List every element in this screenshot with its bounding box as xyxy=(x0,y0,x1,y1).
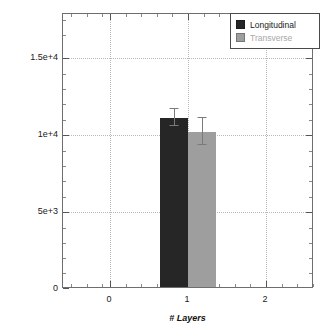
y-tick-label-5000: 5e+3 xyxy=(38,207,58,216)
x-minor-tick xyxy=(282,284,283,287)
y-minor-tick-right xyxy=(309,104,312,105)
x-minor-tick-top xyxy=(172,14,173,17)
y-minor-tick xyxy=(63,151,66,152)
x-minor-tick xyxy=(157,284,158,287)
error-bar-cap-bottom xyxy=(170,125,179,126)
x-minor-tick xyxy=(102,284,103,287)
legend-label-transverse: Transverse xyxy=(250,33,292,43)
y-minor-tick xyxy=(63,35,66,36)
y-major-tick-0 xyxy=(63,288,69,289)
y-major-tick-5000 xyxy=(63,212,69,213)
error-bar-stem xyxy=(202,117,203,145)
y-minor-tick-right xyxy=(309,181,312,182)
gridline-x-2 xyxy=(266,14,267,287)
y-tick-label-0: 0 xyxy=(53,284,58,293)
y-major-tick-10000 xyxy=(63,135,69,136)
y-minor-tick-right xyxy=(309,273,312,274)
x-major-tick-0 xyxy=(110,281,111,287)
error-bar-transverse xyxy=(188,117,216,145)
bar-transverse[interactable] xyxy=(188,132,216,287)
x-minor-tick xyxy=(297,284,298,287)
x-minor-tick xyxy=(87,284,88,287)
y-minor-tick xyxy=(63,166,66,167)
x-minor-tick-top xyxy=(141,14,142,17)
error-bar-stem xyxy=(174,108,175,126)
y-minor-tick xyxy=(63,228,66,229)
y-major-tick-right-10000 xyxy=(306,135,312,136)
x-minor-tick xyxy=(141,284,142,287)
plot-area xyxy=(62,13,313,288)
error-bar-cap-top xyxy=(170,108,179,109)
y-major-tick-15000 xyxy=(63,58,69,59)
y-major-tick-right-5000 xyxy=(306,212,312,213)
x-minor-tick-top xyxy=(219,14,220,17)
y-minor-tick xyxy=(63,273,66,274)
y-minor-tick xyxy=(63,89,66,90)
legend-swatch-transverse xyxy=(236,33,245,42)
x-tick-label-0: 0 xyxy=(94,295,124,304)
x-tick-label-2: 2 xyxy=(250,295,280,304)
y-minor-tick xyxy=(63,258,66,259)
x-minor-tick-top xyxy=(204,14,205,17)
y-minor-tick-right xyxy=(309,197,312,198)
x-minor-tick xyxy=(126,284,127,287)
y-minor-tick xyxy=(63,74,66,75)
y-minor-tick-right xyxy=(309,151,312,152)
x-minor-tick xyxy=(250,284,251,287)
x-minor-tick-top xyxy=(71,14,72,17)
x-major-tick-top-0 xyxy=(110,14,111,20)
x-minor-tick xyxy=(313,284,314,287)
y-minor-tick-right xyxy=(309,74,312,75)
x-major-tick-top-1 xyxy=(188,14,189,20)
y-minor-tick xyxy=(63,243,66,244)
bar-longitudinal[interactable] xyxy=(160,118,188,287)
y-minor-tick xyxy=(63,181,66,182)
legend-item-transverse[interactable]: Transverse xyxy=(236,31,314,44)
legend-label-longitudinal: Longitudinal xyxy=(250,20,296,30)
legend-item-longitudinal[interactable]: Longitudinal xyxy=(236,18,314,31)
gridline-x-0 xyxy=(110,14,111,287)
x-axis-title: # Layers xyxy=(62,312,313,324)
y-minor-tick-right xyxy=(309,243,312,244)
x-minor-tick xyxy=(219,284,220,287)
x-minor-tick xyxy=(71,284,72,287)
y-minor-tick-right xyxy=(309,228,312,229)
y-minor-tick-right xyxy=(309,120,312,121)
x-minor-tick-top xyxy=(87,14,88,17)
error-bar-longitudinal xyxy=(160,108,188,126)
x-tick-label-1: 1 xyxy=(172,295,202,304)
y-minor-tick-right xyxy=(309,89,312,90)
y-minor-tick xyxy=(63,197,66,198)
x-minor-tick-top xyxy=(157,14,158,17)
legend-swatch-longitudinal xyxy=(236,20,245,29)
x-minor-tick-top xyxy=(102,14,103,17)
error-bar-cap-top xyxy=(198,117,207,118)
y-minor-tick-right xyxy=(309,258,312,259)
x-minor-tick-top xyxy=(126,14,127,17)
y-tick-label-10000: 1e+4 xyxy=(38,130,58,139)
y-minor-tick xyxy=(63,120,66,121)
legend: Longitudinal Transverse xyxy=(230,13,320,49)
y-minor-tick-right xyxy=(309,166,312,167)
x-major-tick-2 xyxy=(266,281,267,287)
y-tick-label-15000: 1.5e+4 xyxy=(30,53,58,62)
chart-figure: Electrical conductivity (S/cm) 1.5e+4 1e… xyxy=(0,0,326,333)
y-minor-tick xyxy=(63,20,66,21)
x-minor-tick xyxy=(235,284,236,287)
y-major-tick-right-15000 xyxy=(306,58,312,59)
error-bar-cap-bottom xyxy=(198,144,207,145)
y-minor-tick xyxy=(63,104,66,105)
